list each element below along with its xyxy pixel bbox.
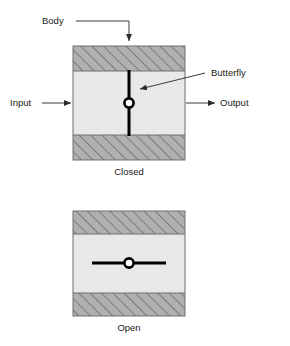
valve-body-bottom-closed [73, 135, 185, 160]
body-label: Body [42, 15, 64, 26]
butterfly-shaft-closed [124, 98, 133, 107]
butterfly-valve-diagram: Body Butterfly Input Output Closed [0, 0, 290, 346]
valve-view-closed: Body Butterfly Input Output Closed [10, 15, 249, 177]
valve-body-bottom-open [73, 293, 185, 316]
callout-output: Output [186, 97, 249, 108]
butterfly-shaft-open [124, 258, 133, 267]
valve-body-top-closed [73, 46, 185, 71]
butterfly-label: Butterfly [211, 67, 246, 78]
caption-open: Open [117, 322, 140, 333]
callout-input: Input [10, 97, 71, 108]
diagram-canvas: Body Butterfly Input Output Closed [0, 0, 290, 346]
valve-view-open: Open [73, 211, 185, 333]
output-label: Output [220, 97, 249, 108]
valve-body-top-open [73, 211, 185, 234]
input-label: Input [10, 97, 31, 108]
caption-closed: Closed [114, 166, 144, 177]
callout-body: Body [42, 15, 129, 41]
body-leader-line [76, 21, 129, 41]
